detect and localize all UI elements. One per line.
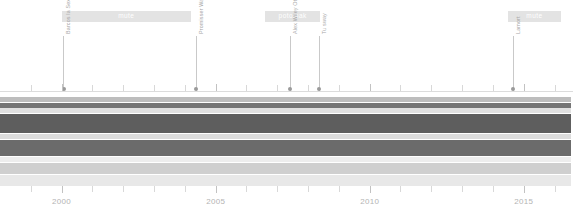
axis-tick-major-bottom xyxy=(370,186,371,193)
axis-tick-minor xyxy=(339,85,340,91)
axis-tick-minor xyxy=(308,85,309,91)
axis-tick-major-bottom xyxy=(524,186,525,193)
axis-tick-label: 2015 xyxy=(514,197,533,206)
axis-tick-minor-bottom xyxy=(400,186,401,192)
axis-tick-minor xyxy=(246,85,247,91)
data-band xyxy=(0,108,571,113)
axis-tick-label: 2010 xyxy=(360,197,379,206)
axis-tick-minor xyxy=(31,85,32,91)
data-band xyxy=(0,157,571,162)
axis-tick-minor-bottom xyxy=(555,186,556,192)
data-band xyxy=(0,140,571,156)
annotation-label: Promisser Wahle xyxy=(199,0,204,34)
era-banner-label: mute xyxy=(526,13,542,20)
axis-tick-minor xyxy=(493,85,494,91)
axis-tick-minor-bottom xyxy=(92,186,93,192)
axis-tick-minor-bottom xyxy=(308,186,309,192)
annotation-label: Tu sway xyxy=(322,13,327,34)
axis-tick-major xyxy=(524,84,525,91)
era-banner: mute xyxy=(62,11,191,22)
axis-tick-minor xyxy=(123,85,124,91)
data-band xyxy=(0,163,571,174)
timeline-band-chart: mutepotomakmute Barcos la SexyPromisser … xyxy=(0,0,573,217)
annotation-label: Barcos la Sexy xyxy=(66,0,71,34)
axis-tick-minor xyxy=(154,85,155,91)
axis-tick-label: 2000 xyxy=(52,197,71,206)
axis-tick-minor-bottom xyxy=(154,186,155,192)
axis-tick-minor-bottom xyxy=(123,186,124,192)
axis-tick-minor-bottom xyxy=(31,186,32,192)
axis-tick-minor-bottom xyxy=(185,186,186,192)
axis-tick-minor xyxy=(431,85,432,91)
axis-tick-minor-bottom xyxy=(431,186,432,192)
axis-tick-minor xyxy=(92,85,93,91)
axis-tick-minor xyxy=(185,85,186,91)
annotation-leader-line xyxy=(196,36,197,91)
axis-tick-minor xyxy=(277,85,278,91)
axis-tick-minor xyxy=(400,85,401,91)
data-band xyxy=(0,134,571,139)
axis-tick-major-bottom xyxy=(62,186,63,193)
axis-baseline xyxy=(0,91,573,92)
axis-tick-minor xyxy=(462,85,463,91)
axis-tick-minor-bottom xyxy=(246,186,247,192)
data-band xyxy=(0,114,571,133)
data-band xyxy=(0,175,571,186)
annotation-leader-line xyxy=(319,36,320,91)
axis-tick-minor-bottom xyxy=(493,186,494,192)
annotation-leader-line xyxy=(290,36,291,91)
axis-tick-minor-bottom xyxy=(277,186,278,192)
annotation-leader-line xyxy=(63,36,64,91)
data-band xyxy=(0,97,571,102)
axis-tick-minor-bottom xyxy=(339,186,340,192)
annotation-label: Lamort xyxy=(516,16,521,34)
axis-tick-minor xyxy=(555,85,556,91)
era-banner-label: mute xyxy=(118,13,134,20)
axis-tick-minor-bottom xyxy=(462,186,463,192)
axis-tick-major xyxy=(216,84,217,91)
annotation-leader-line xyxy=(513,36,514,91)
annotation-label: Alex Wiley Otto xyxy=(293,0,298,34)
axis-tick-major-bottom xyxy=(216,186,217,193)
axis-tick-major xyxy=(370,84,371,91)
axis-tick-label: 2005 xyxy=(206,197,225,206)
axis-tick-major xyxy=(62,84,63,91)
